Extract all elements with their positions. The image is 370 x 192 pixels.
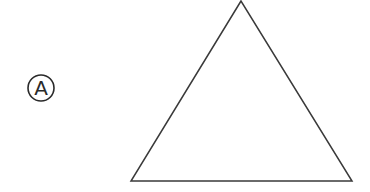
label-letter: A <box>34 76 48 100</box>
circled-label-a: A <box>28 75 54 101</box>
triangle-shape <box>131 1 352 181</box>
figure-canvas: A <box>0 0 370 192</box>
